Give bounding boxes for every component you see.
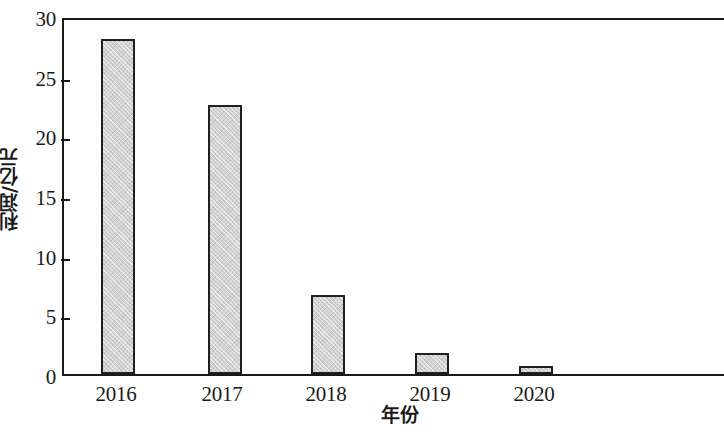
y-axis-tick-label-5: 5 xyxy=(46,305,56,329)
bar-2020 xyxy=(519,366,553,374)
y-axis-tick-label-10: 10 xyxy=(36,246,56,270)
bar-2018 xyxy=(311,295,345,374)
x-axis-tick-label-2019: 2019 xyxy=(390,382,470,406)
y-axis-tick-label-30: 30 xyxy=(36,7,56,31)
bar-2019 xyxy=(415,353,449,374)
y-axis-tick-label-25: 25 xyxy=(36,67,56,91)
y-axis-tick-20: 20 xyxy=(18,139,70,140)
x-axis-tick-label-2020: 2020 xyxy=(494,382,574,406)
y-axis-tick-30: 30 xyxy=(18,20,70,21)
x-axis-tick-label-2018: 2018 xyxy=(286,382,366,406)
y-axis-title: 利润/亿元 xyxy=(0,148,32,231)
y-axis-tick-mark-20 xyxy=(61,139,70,141)
y-axis-tick-5: 5 xyxy=(18,318,70,319)
x-axis-title: 年份 xyxy=(340,404,460,426)
bar-2016 xyxy=(101,39,135,374)
y-axis-tick-label-15: 15 xyxy=(36,186,56,210)
y-axis-tick-mark-25 xyxy=(61,80,70,82)
y-axis-tick-label-0: 0 xyxy=(46,365,56,389)
y-axis-tick-mark-5 xyxy=(61,318,70,320)
y-axis-tick-10: 10 xyxy=(18,259,70,260)
plot-area: 30 25 20 15 10 5 0 xyxy=(62,18,724,376)
y-axis-tick-mark-15 xyxy=(61,199,70,201)
y-axis-tick-25: 25 xyxy=(18,80,70,81)
y-axis-tick-0: 0 xyxy=(18,378,70,379)
x-axis-tick-label-2016: 2016 xyxy=(76,382,156,406)
bar-2017 xyxy=(208,105,242,374)
y-axis-tick-label-20: 20 xyxy=(36,126,56,150)
bar-chart-figure: 30 25 20 15 10 5 0 xyxy=(0,0,724,432)
y-axis-tick-mark-10 xyxy=(61,259,70,261)
x-axis-tick-label-2017: 2017 xyxy=(182,382,262,406)
